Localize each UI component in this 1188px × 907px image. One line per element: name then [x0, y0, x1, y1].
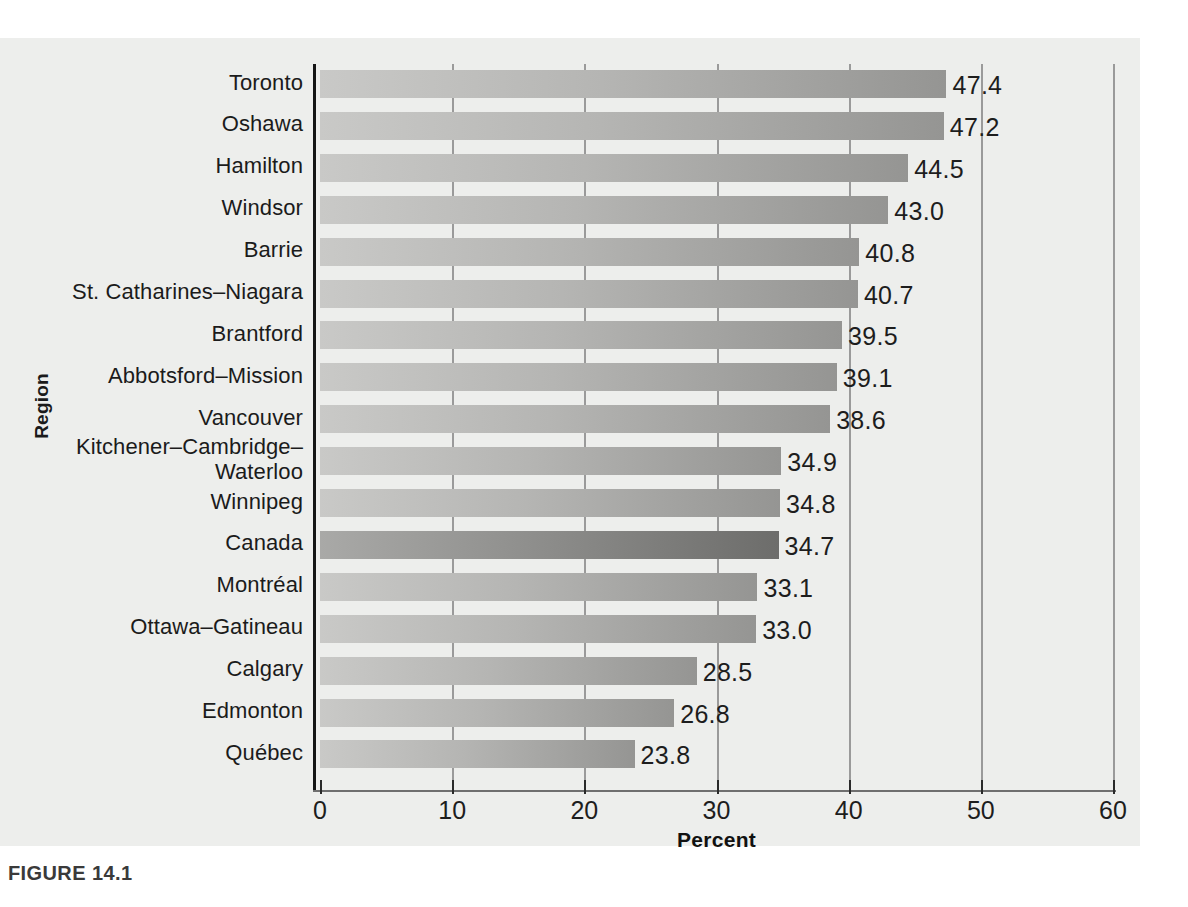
bar-value-label: 47.2: [950, 113, 1000, 142]
category-label-québec: Québec: [0, 740, 303, 765]
x-tick-0: [320, 780, 322, 794]
bar-canada: [320, 531, 779, 559]
bar-st.-catharines–niagara: [320, 280, 858, 308]
category-label-winnipeg: Winnipeg: [0, 489, 303, 514]
bar-row: 39.1: [320, 363, 1113, 391]
x-tick-label-40: 40: [819, 796, 879, 825]
x-tick-label-50: 50: [951, 796, 1011, 825]
bar-brantford: [320, 321, 842, 349]
bar-value-label: 34.9: [787, 448, 837, 477]
x-tick-20: [584, 780, 586, 794]
bar-row: 28.5: [320, 657, 1113, 685]
bar-value-label: 38.6: [836, 406, 886, 435]
bar-value-label: 39.5: [848, 322, 898, 351]
bar-value-label: 40.7: [864, 281, 914, 310]
category-label-toronto: Toronto: [0, 70, 303, 95]
category-label-montréal: Montréal: [0, 572, 303, 597]
bar-row: 40.7: [320, 280, 1113, 308]
category-label-st.-catharines–niagara: St. Catharines–Niagara: [0, 279, 303, 304]
bar-edmonton: [320, 699, 674, 727]
gridline-60: [1113, 64, 1115, 790]
x-tick-10: [452, 780, 454, 794]
x-axis-line: [313, 790, 1116, 792]
bar-row: 38.6: [320, 405, 1113, 433]
bar-toronto: [320, 70, 946, 98]
x-tick-label-10: 10: [422, 796, 482, 825]
bar-ottawa–gatineau: [320, 615, 756, 643]
category-label-abbotsford–mission: Abbotsford–Mission: [0, 363, 303, 388]
bar-row: 34.7: [320, 531, 1113, 559]
bar-value-label: 44.5: [914, 155, 964, 184]
x-tick-label-20: 20: [554, 796, 614, 825]
category-axis-labels: TorontoOshawaHamiltonWindsorBarrieSt. Ca…: [0, 64, 303, 790]
bar-value-label: 34.8: [786, 490, 836, 519]
bar-value-label: 33.1: [763, 574, 813, 603]
bar-row: 23.8: [320, 740, 1113, 768]
category-label-oshawa: Oshawa: [0, 111, 303, 136]
bar-value-label: 43.0: [894, 197, 944, 226]
bar-québec: [320, 740, 635, 768]
bar-row: 44.5: [320, 154, 1113, 182]
bar-row: 43.0: [320, 196, 1113, 224]
x-tick-40: [849, 780, 851, 794]
x-tick-30: [717, 780, 719, 794]
bar-row: 34.8: [320, 489, 1113, 517]
x-tick-60: [1113, 780, 1115, 794]
bar-value-label: 40.8: [865, 239, 915, 268]
bar-kitchener–cambridge–-waterloo: [320, 447, 781, 475]
figure-caption: FIGURE 14.1: [8, 862, 132, 885]
bar-value-label: 47.4: [952, 71, 1002, 100]
bar-row: 33.1: [320, 573, 1113, 601]
bar-abbotsford–mission: [320, 363, 837, 391]
bar-winnipeg: [320, 489, 780, 517]
bar-value-label: 23.8: [641, 741, 691, 770]
bar-row: 34.9: [320, 447, 1113, 475]
bar-row: 39.5: [320, 321, 1113, 349]
x-axis-title: Percent: [320, 828, 1113, 852]
category-label-calgary: Calgary: [0, 656, 303, 681]
category-label-windsor: Windsor: [0, 195, 303, 220]
bar-row: 40.8: [320, 238, 1113, 266]
x-tick-label-30: 30: [687, 796, 747, 825]
bar-vancouver: [320, 405, 830, 433]
bar-windsor: [320, 196, 888, 224]
category-label-brantford: Brantford: [0, 321, 303, 346]
category-axis-line: [313, 64, 316, 790]
x-tick-label-0: 0: [290, 796, 350, 825]
bar-value-label: 28.5: [703, 658, 753, 687]
category-label-ottawa–gatineau: Ottawa–Gatineau: [0, 614, 303, 639]
bar-value-label: 39.1: [843, 364, 893, 393]
bar-hamilton: [320, 154, 908, 182]
category-label-canada: Canada: [0, 530, 303, 555]
category-label-vancouver: Vancouver: [0, 405, 303, 430]
x-tick-50: [981, 780, 983, 794]
x-tick-label-60: 60: [1083, 796, 1143, 825]
bar-row: 26.8: [320, 699, 1113, 727]
figure-bar-chart: Region TorontoOshawaHamiltonWindsorBarri…: [0, 0, 1188, 907]
bar-value-label: 33.0: [762, 616, 812, 645]
bar-value-label: 34.7: [785, 532, 835, 561]
plot-area: 47.447.244.543.040.840.739.539.138.634.9…: [320, 64, 1113, 790]
bar-barrie: [320, 238, 859, 266]
bar-montréal: [320, 573, 757, 601]
category-label-edmonton: Edmonton: [0, 698, 303, 723]
bar-row: 47.2: [320, 112, 1113, 140]
bar-row: 47.4: [320, 70, 1113, 98]
bar-value-label: 26.8: [680, 700, 730, 729]
bar-calgary: [320, 657, 697, 685]
category-label-kitchener–cambridge–: Kitchener–Cambridge– Waterloo: [0, 434, 303, 484]
bar-row: 33.0: [320, 615, 1113, 643]
category-label-barrie: Barrie: [0, 237, 303, 262]
category-label-hamilton: Hamilton: [0, 153, 303, 178]
bar-oshawa: [320, 112, 944, 140]
